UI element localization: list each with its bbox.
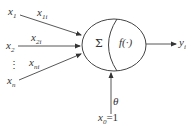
input-ellipsis: ⋮ — [9, 60, 19, 70]
weight-label-xni: xni — [29, 57, 39, 71]
threshold-label: θ — [113, 96, 118, 107]
input-label-xn: xn — [7, 75, 15, 89]
weight-label-x1i: x1i — [37, 7, 47, 21]
sum-symbol: Σ — [95, 38, 103, 49]
input-arrow-1 — [20, 15, 81, 35]
weight-label-x2i: x2i — [31, 32, 41, 46]
input-label-x1: x1 — [8, 6, 16, 20]
neuron-divider — [109, 19, 118, 71]
activation-function: f(·) — [119, 37, 132, 48]
neuron-body — [82, 19, 146, 71]
input-label-x2: x2 — [6, 40, 14, 54]
bias-input-label: x0=1 — [98, 112, 118, 126]
output-label: yi — [179, 37, 186, 51]
